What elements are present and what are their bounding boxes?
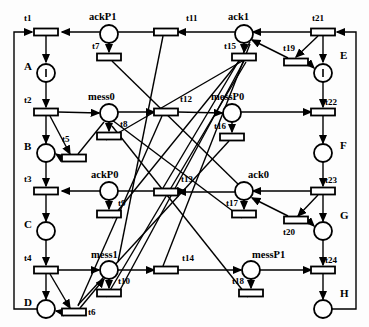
transition-t2[interactable]	[34, 109, 58, 116]
place-label-ackP0: ackP0	[91, 170, 118, 181]
transition-t8[interactable]	[97, 133, 121, 140]
transition-label-t20: t20	[283, 228, 295, 237]
petri-net-diagram: ABCDEFGHackP1ack1mess0messP0ackP0ack0mes…	[0, 0, 369, 327]
transition-t22[interactable]	[311, 109, 335, 116]
place-H[interactable]	[314, 300, 332, 318]
transition-label-t6: t6	[88, 308, 96, 317]
transition-label-t18: t18	[232, 277, 244, 286]
transition-t16[interactable]	[220, 134, 244, 141]
arc	[296, 36, 318, 57]
place-B[interactable]	[37, 144, 55, 162]
place-label-messP1: messP1	[252, 250, 285, 261]
place-label-E: E	[340, 50, 347, 61]
transition-t21[interactable]	[311, 29, 335, 36]
place-label-mess0: mess0	[88, 92, 115, 103]
transition-t6[interactable]	[62, 309, 86, 316]
place-ackP1[interactable]	[100, 25, 118, 43]
arc	[163, 44, 250, 266]
arc	[58, 112, 99, 113]
place-label-C: C	[24, 219, 32, 230]
transition-label-t1: t1	[24, 14, 32, 23]
arc	[56, 154, 62, 158]
place-label-ack0: ack0	[248, 170, 269, 181]
place-ack1[interactable]	[235, 25, 253, 43]
place-messP0[interactable]	[223, 104, 241, 122]
transition-t5[interactable]	[62, 155, 86, 162]
transition-label-t14: t14	[182, 254, 194, 263]
place-label-B: B	[24, 141, 31, 152]
transition-label-t9: t9	[118, 199, 126, 208]
place-messP1[interactable]	[242, 261, 260, 279]
place-label-ackP1: ackP1	[89, 12, 116, 23]
transition-t3[interactable]	[34, 188, 58, 195]
transition-label-t16: t16	[214, 122, 226, 131]
transition-label-t22: t22	[325, 98, 337, 107]
transition-label-t5: t5	[62, 135, 70, 144]
transition-label-t10: t10	[118, 277, 130, 286]
place-label-messP0: messP0	[211, 92, 244, 103]
place-mess0[interactable]	[100, 104, 118, 122]
transition-t10[interactable]	[97, 290, 121, 297]
transition-t11[interactable]	[154, 29, 178, 36]
petri-net-svg	[0, 0, 369, 327]
place-label-A: A	[24, 61, 32, 72]
transition-t12[interactable]	[154, 109, 178, 116]
place-F[interactable]	[314, 144, 332, 162]
transition-t20[interactable]	[284, 217, 308, 224]
arc	[118, 36, 163, 262]
place-label-G: G	[340, 210, 349, 221]
transition-t24[interactable]	[311, 267, 335, 274]
transition-label-t4: t4	[24, 254, 32, 263]
transition-label-t3: t3	[24, 175, 32, 184]
transition-t19[interactable]	[284, 59, 308, 66]
transition-t15[interactable]	[232, 54, 256, 61]
place-D[interactable]	[37, 300, 55, 318]
arc	[56, 311, 62, 312]
place-mess1[interactable]	[100, 261, 118, 279]
transition-t1[interactable]	[34, 29, 58, 36]
transition-t4[interactable]	[34, 267, 58, 274]
arc	[78, 141, 229, 305]
place-label-F: F	[340, 140, 347, 151]
transition-label-t7: t7	[92, 42, 100, 51]
transition-t13[interactable]	[154, 189, 178, 196]
arc	[252, 198, 288, 216]
place-G[interactable]	[314, 222, 332, 240]
transition-label-t12: t12	[180, 95, 192, 104]
place-label-ack1: ack1	[228, 12, 249, 23]
arc	[112, 126, 248, 297]
transition-label-t17: t17	[226, 199, 238, 208]
transition-t14[interactable]	[154, 267, 178, 274]
place-label-H: H	[340, 288, 349, 299]
transition-t9[interactable]	[97, 211, 121, 218]
transition-label-t2: t2	[24, 96, 32, 105]
place-label-D: D	[24, 297, 32, 308]
place-C[interactable]	[37, 222, 55, 240]
arc-layer	[14, 32, 356, 312]
transition-label-t11: t11	[186, 14, 198, 23]
transition-label-t19: t19	[283, 44, 295, 53]
transition-label-t21: t21	[312, 14, 324, 23]
transition-t17[interactable]	[232, 211, 256, 218]
place-label-mess1: mess1	[91, 250, 118, 261]
transition-label-t15: t15	[224, 42, 236, 51]
transition-t7[interactable]	[97, 54, 121, 61]
place-ackP0[interactable]	[100, 182, 118, 200]
transition-label-t8: t8	[120, 120, 128, 129]
transition-label-t13: t13	[181, 175, 193, 184]
transition-label-t23: t23	[325, 176, 337, 185]
transition-t18[interactable]	[239, 290, 263, 297]
arc	[298, 195, 318, 216]
transition-label-t24: t24	[325, 256, 337, 265]
transition-t23[interactable]	[311, 188, 335, 195]
